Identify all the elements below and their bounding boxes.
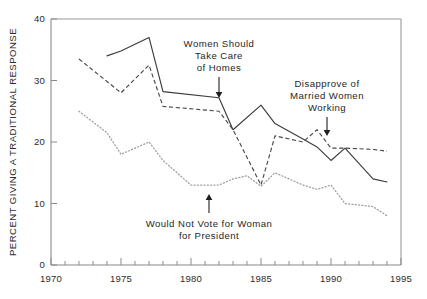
annotation-married-working-arrow-head [324,130,331,136]
annotation-homes: Women Should Take Care of Homes [184,38,255,98]
annotation-president-line-1: Would Not Vote for Woman [146,218,273,229]
chart-figure: 0 10 20 30 40 1970 1975 1980 1985 1990 1… [0,0,427,299]
annotation-married-working-line-3: Working [308,102,346,113]
annotation-married-working-line-2: Married Women [290,90,364,101]
annotation-homes-line-2: Take Care [195,50,243,61]
x-axis-ticks [51,258,401,265]
x-axis-tick-labels: 1970 1975 1980 1985 1990 1995 [40,273,412,284]
annotation-married-working: Disapprove of Married Women Working [290,78,364,136]
x-tick-label-1975: 1975 [110,273,132,284]
series-would-not-vote-for-woman-for-president [79,111,387,216]
annotation-homes-line-3: of Homes [197,62,242,73]
trend-line-chart: 0 10 20 30 40 1970 1975 1980 1985 1990 1… [0,0,427,299]
y-tick-label-20: 20 [34,136,45,147]
y-tick-label-30: 30 [34,75,45,86]
y-tick-label-10: 10 [34,198,45,209]
x-tick-label-1970: 1970 [40,273,62,284]
y-axis-ticks [51,19,57,265]
x-tick-label-1990: 1990 [320,273,342,284]
annotation-president: Would Not Vote for Woman for President [146,194,273,241]
annotation-married-working-line-1: Disapprove of [294,78,359,89]
annotation-president-line-2: for President [179,230,239,241]
y-axis-title: PERCENT GIVING A TRADITIONAL RESPONSE [7,28,18,256]
y-axis-tick-labels: 0 10 20 30 40 [34,13,45,270]
y-tick-label-40: 40 [34,13,45,24]
y-tick-label-0: 0 [40,259,45,270]
x-tick-label-1995: 1995 [390,273,412,284]
x-tick-label-1980: 1980 [180,273,202,284]
x-tick-label-1985: 1985 [250,273,272,284]
annotation-president-arrow-head [206,194,213,200]
annotation-homes-line-1: Women Should [184,38,255,49]
